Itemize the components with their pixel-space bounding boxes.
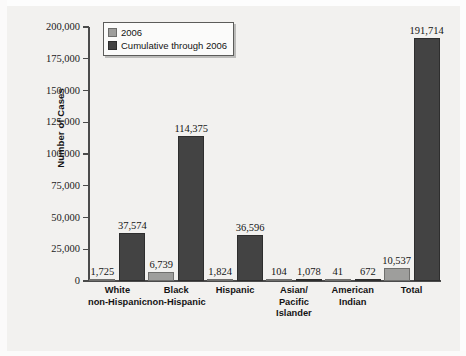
bar-value-label: 114,375	[161, 123, 221, 134]
bar-cumulative	[414, 38, 440, 281]
y-axis-tick-label: 200,000	[4, 21, 80, 32]
bar-value-label: 191,714	[397, 25, 457, 36]
legend-item-2006: 2006	[108, 26, 227, 39]
legend-item-cumulative: Cumulative through 2006	[108, 39, 227, 52]
bar-cumulative	[119, 233, 145, 281]
y-axis-tick-label: 75,000	[4, 180, 80, 191]
legend-swatch-icon-2006	[108, 28, 117, 37]
y-axis-tick-label: 150,000	[4, 85, 80, 96]
bar-2006	[384, 268, 410, 281]
bar-cumulative	[355, 279, 381, 281]
panel-edge-right	[460, 0, 466, 356]
plot-area: 1,72537,5746,739114,3751,82436,5961041,0…	[88, 27, 441, 281]
bar-2006	[325, 279, 351, 281]
y-axis-tick-label: 25,000	[4, 243, 80, 254]
bar-2006	[266, 279, 292, 281]
chart-figure: Number of Cases 200,000175,000150,000125…	[0, 0, 466, 356]
y-axis-tick-label: 0	[4, 275, 80, 286]
bar-2006	[207, 279, 233, 281]
legend-label-cumulative: Cumulative through 2006	[121, 40, 227, 51]
bar-2006	[148, 272, 174, 281]
legend-label-2006: 2006	[121, 27, 142, 38]
bar-cumulative	[296, 279, 322, 281]
y-axis-tick-label: 175,000	[4, 53, 80, 64]
category-label: Total	[367, 285, 457, 297]
y-axis-tick-label: 125,000	[4, 116, 80, 127]
y-axis-tick-label: 50,000	[4, 212, 80, 223]
bar-cumulative	[178, 136, 204, 281]
legend-swatch-icon-cumulative	[108, 41, 117, 50]
y-axis-tick-label: 100,000	[4, 148, 80, 159]
bar-2006	[89, 279, 115, 281]
bar-value-label: 37,574	[102, 220, 162, 231]
panel-edge-top	[0, 0, 466, 6]
chart-legend: 2006 Cumulative through 2006	[103, 22, 234, 56]
panel-edge-bottom	[0, 351, 466, 356]
bar-value-label: 36,596	[220, 222, 280, 233]
